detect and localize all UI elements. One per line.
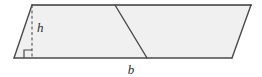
geometry-figure: h b <box>0 0 262 77</box>
height-label: h <box>37 20 44 35</box>
base-label: b <box>128 62 135 77</box>
parallelogram-diagram-svg: h b <box>0 0 262 77</box>
parallelogram-shape <box>14 5 251 58</box>
